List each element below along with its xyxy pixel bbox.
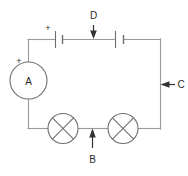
circuit-schematic-canvas: + A + D xyxy=(0,0,188,176)
callout-c-arrow-head xyxy=(161,81,170,88)
callout-c: C xyxy=(161,79,185,90)
lamp-left xyxy=(48,114,78,144)
callout-d-arrow-head xyxy=(90,31,97,40)
callout-b: B xyxy=(89,129,96,166)
callout-d: D xyxy=(90,10,97,39)
circuit-wires xyxy=(28,39,161,129)
callout-b-label: B xyxy=(89,154,96,165)
ammeter-polarity-label: + xyxy=(16,56,21,66)
callout-d-label: D xyxy=(90,10,97,21)
lamp-right xyxy=(108,114,138,144)
callout-c-label: C xyxy=(177,79,184,90)
cell-left xyxy=(56,31,63,48)
ammeter-label: A xyxy=(25,76,32,87)
cell-right xyxy=(116,31,124,48)
cell-left-polarity-label: + xyxy=(45,23,50,33)
callout-b-arrow-head xyxy=(89,129,96,138)
circuit-diagram: + A + D xyxy=(0,0,188,176)
